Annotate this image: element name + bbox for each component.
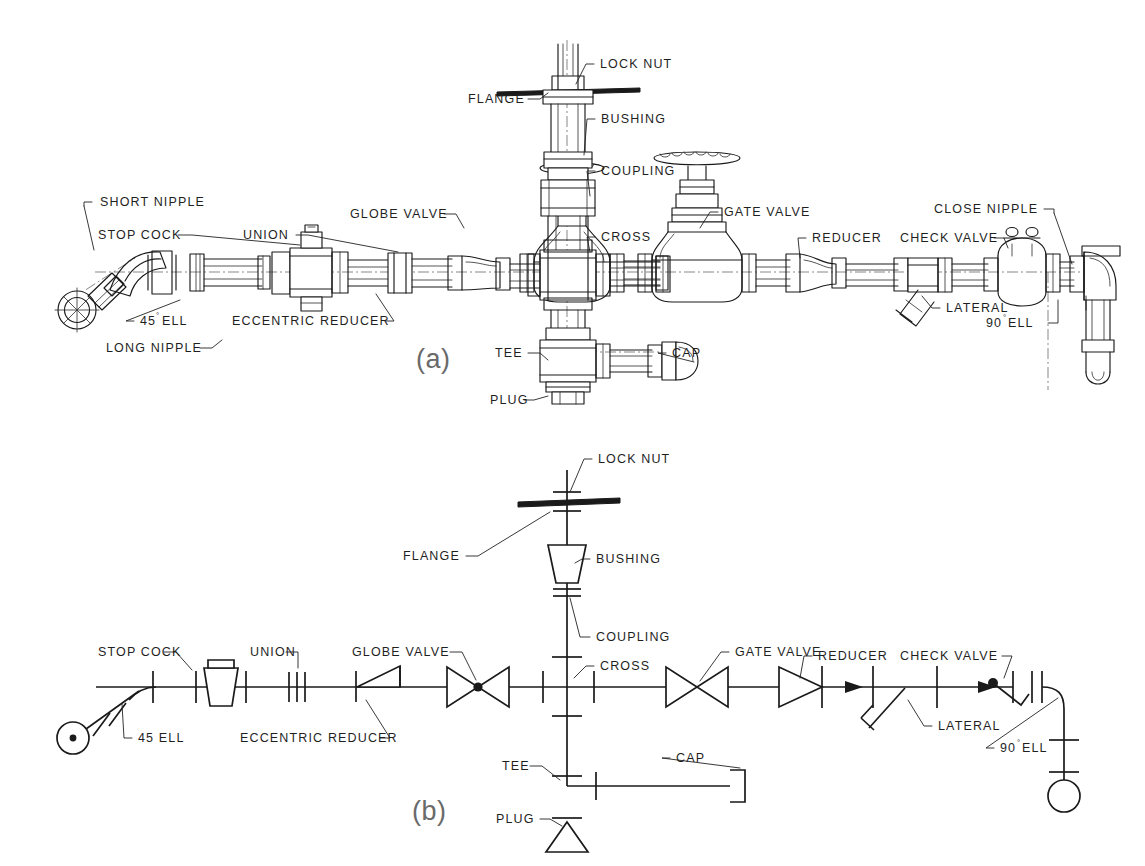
label-close-nipple: CLOSE NIPPLE <box>934 202 1038 216</box>
label-short-nipple: SHORT NIPPLE <box>100 195 205 209</box>
label-eccentric-reducer: ECCENTRIC REDUCER <box>232 314 390 328</box>
label-b-90-ell-degree: ° <box>1017 738 1020 747</box>
label-long-nipple: LONG NIPPLE <box>106 341 202 355</box>
label-tee: TEE <box>495 346 523 360</box>
panel-b-gate-valve <box>666 667 728 707</box>
panel-b-globe-valve <box>447 667 509 707</box>
label-90-ell-tail: ELL <box>1008 316 1034 330</box>
label-b-coupling: COUPLING <box>596 630 671 644</box>
panel-b-cross <box>543 640 594 786</box>
label-check-valve: CHECK VALVE <box>900 231 998 245</box>
label-b-cross: CROSS <box>600 659 650 673</box>
label-45-ell-tail: ELL <box>162 314 188 328</box>
label-b-lateral: LATERAL <box>938 719 1001 733</box>
panel-b-lateral <box>861 666 937 730</box>
panel-a-reducer-lateral <box>756 254 998 326</box>
panel-b-check-valve <box>845 671 1042 705</box>
label-b-globe-valve: GLOBE VALVE <box>352 645 450 659</box>
piping-fittings-diagram: SHORT NIPPLE STOP COCK UNION 45 ° ELL LO… <box>0 0 1145 866</box>
label-b-45-ell: 45 ELL <box>138 731 185 745</box>
label-45-ell-degree: ° <box>156 311 159 320</box>
label-90-ell-degree: ° <box>1003 313 1006 322</box>
panel-b-caption: (b) <box>412 796 447 826</box>
label-b-tee: TEE <box>502 759 530 773</box>
label-b-check-valve: CHECK VALVE <box>900 649 998 663</box>
label-reducer: REDUCER <box>812 231 882 245</box>
label-plug: PLUG <box>490 393 529 407</box>
panel-b-symbolic: STOP COCK UNION 45 ELL ECCENTRIC REDUCER… <box>57 452 1080 852</box>
figure-root: SHORT NIPPLE STOP COCK UNION 45 ° ELL LO… <box>0 0 1145 866</box>
label-b-reducer: REDUCER <box>818 649 888 663</box>
panel-b-stop-cock <box>204 660 246 706</box>
label-90-ell: 90 <box>986 316 1002 330</box>
label-flange: FLANGE <box>468 92 525 106</box>
label-coupling: COUPLING <box>601 164 676 178</box>
label-globe-valve: GLOBE VALVE <box>350 207 448 221</box>
label-cross: CROSS <box>601 230 651 244</box>
panel-b-eccentric-reducer <box>356 666 400 702</box>
label-45-ell: 45 <box>140 314 156 328</box>
panel-b-labels: STOP COCK UNION 45 ELL ECCENTRIC REDUCER… <box>98 452 1058 826</box>
panel-a-caption: (a) <box>416 344 451 374</box>
label-b-bushing: BUSHING <box>596 552 661 566</box>
label-b-eccentric-reducer: ECCENTRIC REDUCER <box>240 731 398 745</box>
label-b-90-ell: 90 <box>1000 741 1016 755</box>
panel-a-check-valve <box>998 228 1120 385</box>
label-b-90-ell-tail: ELL <box>1022 741 1048 755</box>
label-b-lock-nut: LOCK NUT <box>598 452 670 466</box>
label-bushing: BUSHING <box>601 112 666 126</box>
label-b-plug: PLUG <box>496 812 535 826</box>
label-b-gate-valve: GATE VALVE <box>735 645 822 659</box>
panel-a-cross <box>528 240 610 310</box>
panel-a-pictorial: SHORT NIPPLE STOP COCK UNION 45 ° ELL LO… <box>55 40 1120 407</box>
label-lateral: LATERAL <box>946 301 1009 315</box>
label-stop-cock: STOP COCK <box>98 228 182 242</box>
label-union: UNION <box>243 228 289 242</box>
label-lock-nut: LOCK NUT <box>600 57 672 71</box>
label-b-flange: FLANGE <box>403 549 460 563</box>
label-gate-valve: GATE VALVE <box>724 205 811 219</box>
panel-b-bottom-branch <box>546 770 745 852</box>
panel-b-reducer <box>779 666 822 708</box>
panel-a-union <box>348 253 452 293</box>
